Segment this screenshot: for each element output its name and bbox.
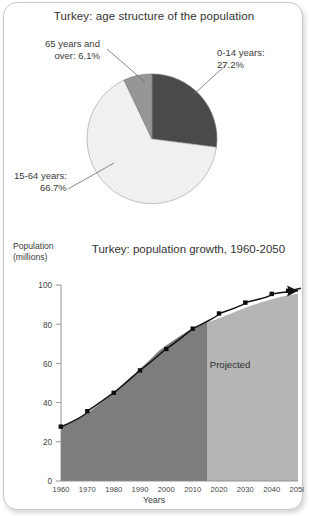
y-tick-label-60: 60 <box>43 360 53 369</box>
x-axis-caption: Years <box>4 495 304 505</box>
x-tick-label-2020: 2020 <box>211 485 228 494</box>
x-tick-label-2010: 2010 <box>184 485 201 494</box>
leader-line-65-over <box>107 49 145 82</box>
data-point-2030 <box>243 300 247 304</box>
data-point-2020 <box>217 311 221 315</box>
pie-label-15-64-line1: 15-64 years: <box>14 170 67 182</box>
data-point-1970 <box>85 409 89 413</box>
data-point-2050 <box>286 289 290 293</box>
data-point-2010 <box>191 327 195 331</box>
x-tick-label-2040: 2040 <box>263 485 280 494</box>
x-axis: 1960 1970 1980 1990 2000 2010 2020 2030 … <box>53 481 304 494</box>
line-chart-panel: Population (millions) Turkey: population… <box>4 231 304 511</box>
pie-label-0-14: 0-14 years: 27.2% <box>217 47 265 71</box>
projected-annotation: Projected <box>210 359 251 370</box>
x-tick-label-2000: 2000 <box>158 485 175 494</box>
data-point-1960 <box>59 424 63 428</box>
pie-chart-panel: Turkey: age structure of the population … <box>4 3 304 231</box>
x-tick-label-1990: 1990 <box>132 485 149 494</box>
data-point-2040 <box>270 292 274 296</box>
y-tick-label-40: 40 <box>43 399 53 408</box>
x-tick-label-2050: 2050 <box>290 485 304 494</box>
figure-card: Turkey: age structure of the population … <box>3 2 303 510</box>
y-tick-label-20: 20 <box>43 438 53 447</box>
pie-label-65-over-line2: over: 6.1% <box>45 50 100 62</box>
data-point-1990 <box>138 368 142 372</box>
pie-slice-0-14 <box>152 74 217 147</box>
y-axis: 100 80 60 40 20 0 <box>38 281 61 486</box>
pie-label-15-64-line2: 66.7% <box>14 182 67 194</box>
data-point-2000 <box>164 347 168 351</box>
page-root: Turkey: age structure of the population … <box>0 0 309 516</box>
data-point-1980 <box>112 391 116 395</box>
x-tick-label-1960: 1960 <box>53 485 70 494</box>
line-chart-graphic: 100 80 60 40 20 0 1960 1970 1980 1990 20… <box>4 231 304 511</box>
pie-label-0-14-line1: 0-14 years: <box>217 47 265 59</box>
x-tick-label-1980: 1980 <box>105 485 122 494</box>
x-tick-label-2030: 2030 <box>237 485 254 494</box>
area-historical <box>61 322 207 481</box>
pie-label-15-64: 15-64 years: 66.7% <box>14 170 67 194</box>
pie-label-65-over: 65 years and over: 6.1% <box>45 38 100 62</box>
y-tick-label-80: 80 <box>43 321 53 330</box>
x-tick-label-1970: 1970 <box>79 485 96 494</box>
pie-label-0-14-line2: 27.2% <box>217 59 265 71</box>
y-tick-label-100: 100 <box>38 281 52 290</box>
area-projected <box>207 294 298 481</box>
pie-label-65-over-line1: 65 years and <box>45 38 100 50</box>
